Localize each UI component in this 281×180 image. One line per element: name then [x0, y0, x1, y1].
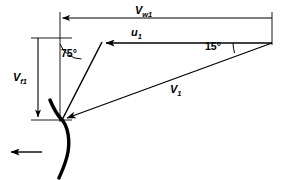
velocity-triangle-diagram: Vw1 u1 Vf1 V1 75° 15° — [0, 0, 281, 180]
label-absolute-velocity: V1 — [170, 84, 181, 95]
label-blade-angle: 75° — [61, 48, 77, 59]
label-whirl-velocity: Vw1 — [135, 5, 152, 16]
label-flow-velocity-subscript: f1 — [20, 77, 26, 86]
label-absolute-velocity-subscript: 1 — [177, 89, 181, 98]
label-blade-velocity-symbol: u — [131, 26, 138, 38]
label-whirl-velocity-subscript: w1 — [142, 10, 152, 19]
label-nozzle-angle: 15° — [205, 41, 221, 52]
label-blade-velocity-subscript: 1 — [138, 32, 142, 41]
label-flow-velocity: Vf1 — [13, 72, 27, 83]
v1-vector — [67, 43, 272, 118]
label-blade-velocity: u1 — [131, 27, 142, 38]
angle-15-arc — [233, 43, 235, 53]
